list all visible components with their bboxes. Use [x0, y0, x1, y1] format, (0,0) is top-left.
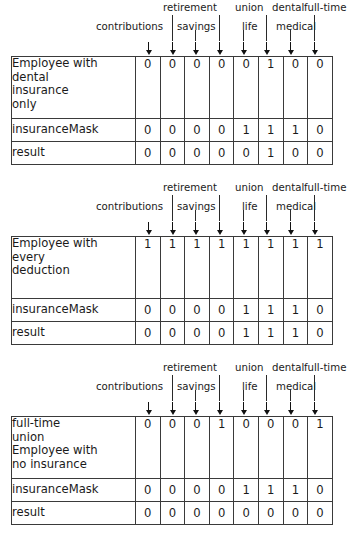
- table-row: Employee witheverydeduction11111111: [12, 237, 333, 299]
- table-row: result00000000: [12, 502, 333, 525]
- down-arrow-icon: [192, 222, 199, 236]
- bit-cell: 0: [185, 479, 210, 502]
- diagram-block: retirementuniondentalfull-timecontributi…: [0, 360, 348, 416]
- column-header-label: retirement: [163, 2, 217, 14]
- bit-cell: 1: [136, 237, 161, 299]
- bit-cell: 0: [209, 502, 234, 525]
- down-arrow-icon: [287, 402, 294, 416]
- row-label-line: full-time: [12, 417, 135, 431]
- bit-cell: 1: [258, 237, 283, 299]
- bit-cell: 0: [185, 142, 210, 165]
- row-label-cell: full-timeunionEmployee withno insurance: [12, 417, 136, 479]
- header-connector-line: [195, 390, 196, 401]
- row-label-line: insuranceMask: [12, 303, 135, 317]
- header-connector-line: [243, 30, 244, 41]
- bit-cell: 0: [258, 417, 283, 479]
- row-label-line: Employee with: [12, 444, 135, 458]
- bit-cell: 1: [209, 417, 234, 479]
- row-label-line: Employee with: [12, 237, 135, 251]
- bit-cell: 0: [234, 502, 259, 525]
- down-arrow-icon: [192, 402, 199, 416]
- bit-cell: 1: [283, 479, 308, 502]
- diagram-block: retirementuniondentalfull-timecontributi…: [0, 180, 348, 236]
- bit-cell: 0: [308, 502, 333, 525]
- table-row: insuranceMask00001110: [12, 479, 333, 502]
- bit-cell: 0: [209, 479, 234, 502]
- arrow-strip: [0, 222, 348, 236]
- table-row: insuranceMask00001110: [12, 299, 333, 322]
- arrow-strip: [0, 42, 348, 56]
- column-header-label: savings: [177, 201, 216, 213]
- header-connector-line: [243, 390, 244, 401]
- bit-cell: 0: [160, 57, 185, 119]
- column-header-band: retirementuniondentalfull-timecontributi…: [0, 0, 348, 42]
- header-connector-line: [266, 15, 267, 41]
- header-connector-line: [290, 210, 291, 221]
- header-connector-line: [195, 210, 196, 221]
- header-connector-line: [314, 375, 315, 401]
- row-label-cell: insuranceMask: [12, 299, 136, 322]
- bit-cell: 0: [185, 299, 210, 322]
- bit-cell: 0: [185, 322, 210, 345]
- bit-cell: 1: [234, 119, 259, 142]
- row-label-line: only: [12, 98, 135, 112]
- down-arrow-icon: [216, 42, 223, 56]
- down-arrow-icon: [311, 222, 318, 236]
- bit-cell: 1: [160, 237, 185, 299]
- bit-cell: 0: [136, 479, 161, 502]
- bit-cell: 1: [209, 237, 234, 299]
- down-arrow-icon: [240, 42, 247, 56]
- header-connector-line: [195, 30, 196, 41]
- down-arrow-icon: [145, 42, 152, 56]
- down-arrow-icon: [169, 402, 176, 416]
- bit-cell: 1: [258, 299, 283, 322]
- bit-cell: 1: [283, 322, 308, 345]
- row-label-line: insuranceMask: [12, 483, 135, 497]
- row-label-cell: insuranceMask: [12, 119, 136, 142]
- row-label-cell: Employee witheverydeduction: [12, 237, 136, 299]
- bit-cell: 1: [234, 479, 259, 502]
- header-connector-line: [219, 375, 220, 401]
- header-connector-line: [266, 375, 267, 401]
- row-label-line: no insurance: [12, 458, 135, 472]
- bit-cell: 0: [185, 119, 210, 142]
- down-arrow-icon: [240, 222, 247, 236]
- bit-cell: 0: [308, 57, 333, 119]
- row-label-line: result: [12, 146, 135, 160]
- bit-cell: 0: [136, 142, 161, 165]
- bit-cell: 0: [136, 322, 161, 345]
- header-connector-line: [172, 195, 173, 221]
- bit-cell: 0: [283, 142, 308, 165]
- header-connector-line: [314, 15, 315, 41]
- header-connector-line: [243, 210, 244, 221]
- bit-cell: 0: [136, 502, 161, 525]
- down-arrow-icon: [169, 222, 176, 236]
- column-header-label: savings: [177, 21, 216, 33]
- down-arrow-icon: [287, 42, 294, 56]
- row-label-line: union: [12, 431, 135, 445]
- bit-cell: 0: [160, 119, 185, 142]
- column-header-label: union: [235, 362, 263, 374]
- down-arrow-icon: [216, 222, 223, 236]
- column-header-label: retirement: [163, 182, 217, 194]
- column-header-label: dental: [272, 182, 304, 194]
- down-arrow-icon: [287, 222, 294, 236]
- bit-cell: 0: [136, 119, 161, 142]
- header-connector-line: [266, 195, 267, 221]
- column-header-label: contributions: [96, 381, 163, 393]
- down-arrow-icon: [311, 402, 318, 416]
- bit-cell: 1: [283, 119, 308, 142]
- column-header-band: retirementuniondentalfull-timecontributi…: [0, 180, 348, 222]
- down-arrow-icon: [145, 222, 152, 236]
- bit-cell: 0: [308, 299, 333, 322]
- bit-cell: 1: [258, 322, 283, 345]
- bit-cell: 0: [136, 299, 161, 322]
- bit-cell: 0: [283, 417, 308, 479]
- bit-cell: 0: [185, 417, 210, 479]
- table-row: result00000100: [12, 142, 333, 165]
- row-label-line: result: [12, 326, 135, 340]
- down-arrow-icon: [263, 402, 270, 416]
- bit-cell: 1: [185, 237, 210, 299]
- column-header-label: full-time: [304, 362, 346, 374]
- bit-cell: 0: [308, 322, 333, 345]
